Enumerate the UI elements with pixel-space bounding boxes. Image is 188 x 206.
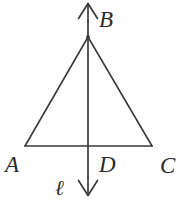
line-label-l: ℓ xyxy=(55,178,64,199)
vertex-dot-b xyxy=(86,35,90,39)
vertex-label-a: A xyxy=(5,153,19,176)
geometry-figure: B A D C ℓ xyxy=(0,0,188,206)
vertex-label-b: B xyxy=(99,8,113,31)
line-l-group xyxy=(79,4,98,196)
segment-bc xyxy=(88,37,152,146)
vertex-label-d: D xyxy=(99,153,116,176)
segment-ab xyxy=(25,37,88,146)
vertex-label-c: C xyxy=(160,154,175,177)
